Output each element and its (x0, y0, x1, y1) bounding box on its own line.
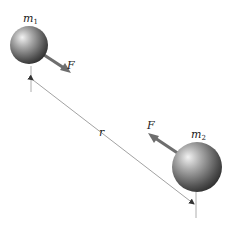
sphere-mass-1 (10, 26, 48, 64)
mass-2-label: m2 (191, 128, 206, 142)
distance-dimension-line (33, 80, 194, 204)
force-label-2: F (146, 119, 155, 132)
distance-label: r (99, 126, 105, 139)
sphere-mass-2 (172, 142, 222, 192)
force-label-1: F (66, 59, 75, 72)
gravitation-diagram: r F m1 F m2 (0, 0, 231, 230)
mass-1-label: m1 (23, 12, 38, 26)
